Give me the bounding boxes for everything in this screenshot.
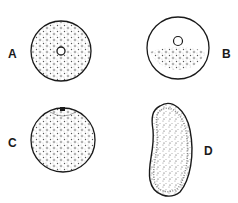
label-c: C <box>8 136 17 150</box>
cell-a-nucleus <box>57 47 65 55</box>
cell-diagram: A B C D <box>0 0 238 203</box>
cell-b-nucleus <box>174 37 183 46</box>
panel-b: B <box>147 17 231 79</box>
panel-d: D <box>149 103 213 196</box>
panel-a: A <box>8 21 91 81</box>
cell-c-nucleus <box>60 107 65 111</box>
label-d: D <box>204 144 213 158</box>
panel-c: C <box>8 107 95 172</box>
label-b: B <box>222 47 231 61</box>
cell-d-membrane <box>149 103 192 196</box>
cell-c-membrane <box>31 108 95 172</box>
label-a: A <box>8 47 17 61</box>
